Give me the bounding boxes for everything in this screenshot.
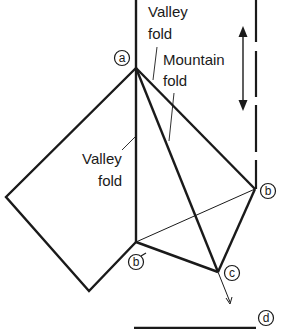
valley-fold-top-label-line2: fold [148, 25, 172, 42]
point-c-marker: c [225, 266, 240, 281]
valley-fold-left-label-line2: fold [98, 172, 122, 189]
valley-fold-left-label-line1: Valley [82, 150, 122, 167]
svg-text:a: a [119, 51, 126, 65]
point-d-marker: d [259, 311, 274, 326]
mountain-fold-label-line2: fold [163, 72, 187, 89]
svg-text:b: b [265, 184, 272, 198]
edge-a-b [136, 68, 255, 189]
valley-fold-top-label-line1: Valley [148, 3, 188, 20]
svg-text:b: b [133, 255, 140, 269]
mountain-fold-line [136, 68, 218, 272]
thin-line-bprime-b [136, 189, 255, 242]
svg-text:c: c [229, 266, 235, 280]
edge-bprime-c [136, 242, 218, 272]
point-b-marker: b [261, 184, 276, 199]
edge-b-c [218, 189, 255, 272]
double-arrow-down-head [239, 100, 248, 111]
leader-valley-fold-top [153, 47, 157, 80]
point-a-marker: a [115, 51, 130, 66]
leader-valley-fold-left [122, 137, 135, 150]
point-b-prime-marker: b [129, 253, 147, 270]
svg-text:d: d [263, 311, 270, 325]
origami-fold-diagram: Valley fold Mountain fold Valley fold a … [0, 0, 282, 329]
leader-mountain-fold [169, 93, 174, 141]
mountain-fold-label-line1: Mountain [163, 51, 225, 68]
double-arrow-up-head [239, 26, 248, 37]
